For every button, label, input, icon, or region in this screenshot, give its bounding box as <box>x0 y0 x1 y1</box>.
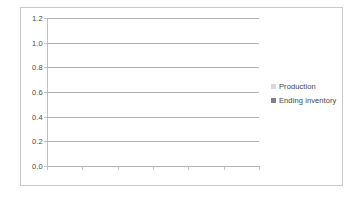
y-axis-tick-label: 0.2 <box>32 137 43 146</box>
legend-swatch-icon <box>271 84 276 89</box>
y-axis-tick-label: 1.2 <box>32 14 43 23</box>
y-axis-tick-label: 0.4 <box>32 112 43 121</box>
x-axis-tick-mark <box>118 166 119 170</box>
y-axis-tick-label: 0.0 <box>32 162 43 171</box>
gridline <box>47 117 259 118</box>
x-axis-tick-mark <box>259 166 260 170</box>
x-axis-tick-mark <box>82 166 83 170</box>
x-axis-tick-mark <box>224 166 225 170</box>
legend-item[interactable]: Ending inventory <box>271 96 343 105</box>
legend-label: Production <box>279 82 316 91</box>
chart-legend[interactable]: ProductionEnding inventory <box>271 82 343 110</box>
gridline <box>47 67 259 68</box>
y-axis-tick-mark <box>44 67 47 68</box>
plot-area[interactable] <box>47 18 259 166</box>
y-axis-tick-mark <box>44 43 47 44</box>
y-axis-tick-labels: 1.21.00.80.60.40.20.0 <box>21 18 43 166</box>
x-axis-tick-mark <box>47 166 48 170</box>
legend-swatch-icon <box>271 98 276 103</box>
x-axis-tick-marks <box>47 166 259 171</box>
y-axis-tick-label: 0.6 <box>32 88 43 97</box>
y-axis-tick-label: 0.8 <box>32 63 43 72</box>
x-axis-tick-mark <box>188 166 189 170</box>
chart-container[interactable]: 1.21.00.80.60.40.20.0 ProductionEnding i… <box>20 7 343 186</box>
x-axis-tick-mark <box>153 166 154 170</box>
y-axis-tick-mark <box>44 141 47 142</box>
y-axis-tick-mark <box>44 92 47 93</box>
legend-item[interactable]: Production <box>271 82 343 91</box>
gridline <box>47 141 259 142</box>
legend-label: Ending inventory <box>279 96 336 105</box>
gridline <box>47 43 259 44</box>
y-axis-tick-label: 1.0 <box>32 38 43 47</box>
gridline <box>47 92 259 93</box>
gridline <box>47 18 259 19</box>
y-axis-tick-mark <box>44 117 47 118</box>
y-axis-tick-mark <box>44 18 47 19</box>
